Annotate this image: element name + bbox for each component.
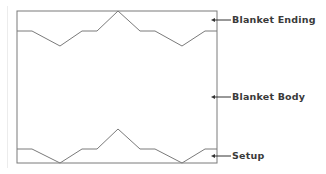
ending-arrow (211, 18, 231, 22)
label-blanket-ending: Blanket Ending (232, 14, 316, 26)
blanket-diagram (0, 0, 326, 174)
label-blanket-body: Blanket Body (232, 91, 305, 103)
ending-zigzag (17, 11, 217, 46)
body-arrow (211, 95, 231, 99)
label-setup: Setup (232, 150, 264, 162)
setup-zigzag (17, 129, 217, 163)
blanket-outline (17, 11, 217, 163)
setup-arrow (211, 154, 231, 158)
